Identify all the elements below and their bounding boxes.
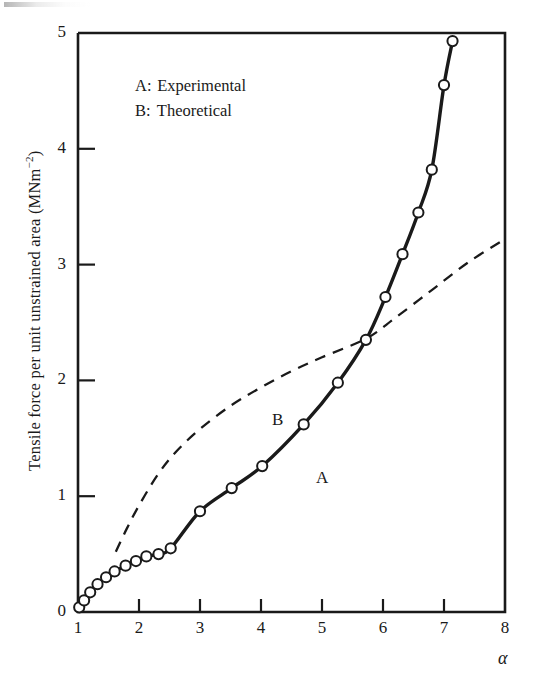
legend-key-a: A: [135,74,153,99]
x-tick-label: 2 [127,618,151,638]
legend-item-experimental: A: Experimental [135,74,246,99]
curve-label-a: A [316,468,328,488]
legend-key-b: B: [135,99,153,124]
series-theoretical-line [116,239,505,552]
legend-item-theoretical: B: Theoretical [135,99,246,124]
y-axis-label-paren: ) [25,151,44,157]
x-tick-label: 7 [432,618,456,638]
x-tick-label: 8 [493,618,517,638]
figure-container: Tensile force per unit unstrained area (… [0,0,537,685]
y-tick-label: 3 [44,254,66,274]
y-tick-label: 1 [44,485,66,505]
legend: A: Experimental B: Theoretical [135,74,246,124]
x-tick-label: 4 [249,618,273,638]
x-tick-label: 6 [371,618,395,638]
x-tick-label: 3 [188,618,212,638]
curve-label-b: B [272,410,283,430]
chart-canvas [0,0,537,685]
series-experimental-line [79,41,452,607]
y-tick-label: 4 [44,138,66,158]
y-axis-label-text: Tensile force per unit unstrained area (… [25,168,44,471]
series-experimental-markers [74,36,458,612]
x-axis-tick-marks [139,599,444,612]
x-tick-label: 5 [310,618,334,638]
x-axis-label: α [498,648,507,669]
y-tick-label: 0 [44,601,66,621]
y-axis-label: Tensile force per unit unstrained area (… [23,31,45,591]
y-axis-tick-marks [78,149,95,496]
y-tick-label: 2 [44,369,66,389]
y-tick-label: 5 [44,22,66,42]
y-axis-label-exponent: −2 [23,156,35,168]
legend-label-b: Theoretical [157,101,232,120]
legend-label-a: Experimental [157,76,246,95]
x-tick-label: 1 [66,618,90,638]
